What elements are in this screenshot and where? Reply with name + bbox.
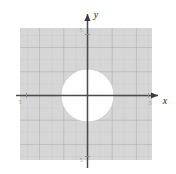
coordinate-plane-svg: 5 5 5 5 x y [0,0,176,174]
tick-label-y-positive: 5 [80,27,83,33]
y-axis-arrow-icon [84,14,90,21]
tick-label-x-negative: 5 [19,99,22,105]
x-axis-arrow-icon [151,92,158,98]
x-axis-label: x [162,95,168,106]
tick-label-x-positive: 5 [149,100,152,106]
tick-label-y-negative: 5 [80,157,83,163]
y-axis-label: y [93,9,99,20]
graph-figure: 5 5 5 5 x y [0,0,176,174]
